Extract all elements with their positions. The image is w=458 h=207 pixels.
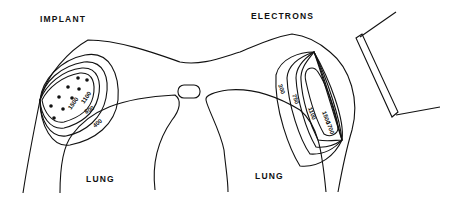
- isodose-label: 1700: [325, 120, 335, 135]
- vertebra: [178, 85, 200, 98]
- left-lung-outline: [60, 95, 179, 193]
- isodose-label: 400: [92, 117, 104, 128]
- electron-applicator: [356, 12, 440, 117]
- isodose-label: 750: [291, 93, 300, 105]
- electrons-label: ELECTRONS: [251, 11, 314, 21]
- isodose-label: 1500: [67, 96, 80, 111]
- implant-label: IMPLANT: [40, 14, 86, 24]
- isodose-label: 300: [277, 83, 286, 95]
- body-outline: [23, 34, 355, 193]
- lung-left-label: LUNG: [86, 174, 115, 184]
- isodose-diagram: 1500 1100 800 400 300 750 1100 1500 1700…: [0, 0, 458, 207]
- lung-right-label: LUNG: [255, 171, 284, 181]
